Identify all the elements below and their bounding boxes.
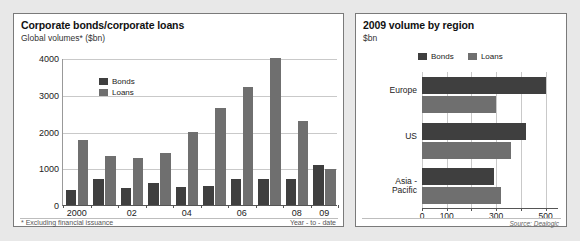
x-axis-tickmark bbox=[146, 205, 147, 208]
x-axis-tickmark bbox=[118, 205, 119, 208]
x-axis-tick-label: 0 bbox=[420, 211, 425, 221]
x-axis-tickmark bbox=[256, 205, 257, 208]
category-label-europe: Europe bbox=[390, 86, 417, 95]
bar-loans-06 bbox=[243, 87, 254, 205]
right-chart-panel: 2009 volume by region $bn Bonds Loans Eu… bbox=[355, 13, 567, 227]
x-axis-tick-label: 2000 bbox=[67, 208, 87, 218]
bar-loans-02 bbox=[133, 158, 144, 205]
left-chart-year-to-date-note: Year - to - date bbox=[290, 219, 336, 226]
right-chart-footer-rule bbox=[362, 218, 561, 219]
legend-swatch-loans bbox=[468, 53, 477, 60]
right-chart-title: 2009 volume by region bbox=[363, 19, 474, 31]
legend-label-loans: Loans bbox=[481, 52, 503, 61]
x-axis-tick-label: 300 bbox=[489, 211, 503, 221]
bar-bonds-asia-pacific bbox=[422, 168, 494, 185]
left-chart-footnote: * Excluding financial issuance bbox=[21, 219, 113, 226]
legend-item-bonds: Bonds bbox=[418, 52, 454, 61]
bar-bonds-09 bbox=[313, 165, 324, 205]
bar-loans-08 bbox=[298, 121, 309, 205]
x-axis-tickmark bbox=[91, 205, 92, 208]
x-axis-tickmark bbox=[521, 208, 522, 211]
bar-bonds-europe bbox=[422, 77, 546, 94]
x-axis-tick-label: 08 bbox=[292, 208, 302, 218]
bar-bonds-07 bbox=[258, 179, 269, 205]
x-axis-tick-label: 09 bbox=[319, 208, 329, 218]
gridline bbox=[63, 59, 337, 60]
gridline bbox=[63, 133, 337, 134]
x-axis-tickmark bbox=[201, 205, 202, 208]
x-axis-tick-label: 100 bbox=[440, 211, 454, 221]
legend-item-loans: Loans bbox=[468, 52, 503, 61]
left-chart-legend: Bonds Loans bbox=[99, 77, 135, 99]
left-chart-panel: Corporate bonds/corporate loans Global v… bbox=[13, 13, 344, 227]
figure-canvas: Corporate bonds/corporate loans Global v… bbox=[0, 0, 580, 241]
legend-swatch-loans bbox=[99, 89, 108, 96]
category-label-us: US bbox=[405, 132, 417, 141]
bar-loans-07 bbox=[270, 58, 281, 205]
bar-bonds-03 bbox=[148, 183, 159, 205]
legend-label-bonds: Bonds bbox=[431, 52, 454, 61]
bar-bonds-04 bbox=[176, 187, 187, 205]
left-chart-subtitle: Global volumes* ($bn) bbox=[21, 33, 105, 43]
bar-bonds-05 bbox=[203, 186, 214, 205]
bar-loans-09 bbox=[325, 169, 336, 205]
legend-label-loans: Loans bbox=[112, 88, 134, 97]
legend-swatch-bonds bbox=[99, 78, 108, 85]
legend-item-bonds: Bonds bbox=[99, 77, 135, 86]
gridline bbox=[546, 72, 547, 208]
bar-loans-us bbox=[422, 142, 511, 159]
category-label-asia-pacific: Asia -Pacific bbox=[392, 177, 417, 195]
y-axis-tick-label: 2000 bbox=[39, 128, 59, 138]
right-chart-plot-area: EuropeUSAsia -Pacific 0100300500 bbox=[422, 72, 558, 209]
x-axis-tick-label: 06 bbox=[237, 208, 247, 218]
bar-loans-01 bbox=[105, 156, 116, 205]
bar-loans-asia-pacific bbox=[422, 187, 501, 204]
legend-swatch-bonds bbox=[418, 53, 427, 60]
bar-bonds-08 bbox=[286, 179, 297, 205]
x-axis-tickmark bbox=[338, 205, 339, 208]
y-axis-tick-label: 1000 bbox=[39, 164, 59, 174]
bar-bonds-us bbox=[422, 123, 526, 140]
x-axis-tickmark bbox=[63, 205, 64, 208]
y-axis-tick-label: 0 bbox=[54, 201, 59, 211]
bar-loans-2000 bbox=[78, 140, 89, 205]
x-axis-tickmark bbox=[228, 205, 229, 208]
x-axis-tick-label: 04 bbox=[182, 208, 192, 218]
bar-bonds-06 bbox=[231, 179, 242, 205]
y-axis-tick-label: 4000 bbox=[39, 54, 59, 64]
right-chart-source: Source: Dealogic bbox=[510, 220, 560, 227]
right-chart-legend: Bonds Loans bbox=[418, 52, 515, 63]
legend-item-loans: Loans bbox=[99, 88, 135, 97]
right-chart-subtitle: $bn bbox=[363, 33, 377, 43]
bar-loans-04 bbox=[188, 132, 199, 205]
x-axis-tickmark bbox=[173, 205, 174, 208]
x-axis-tickmark bbox=[311, 205, 312, 208]
bar-loans-05 bbox=[215, 108, 226, 205]
bar-bonds-02 bbox=[121, 188, 132, 205]
left-chart-title: Corporate bonds/corporate loans bbox=[21, 19, 184, 31]
y-axis-tick-label: 3000 bbox=[39, 91, 59, 101]
bar-bonds-01 bbox=[93, 179, 104, 205]
left-chart-plot-area: 01000200030004000 20000204060809 Bonds L… bbox=[62, 59, 337, 206]
bar-loans-europe bbox=[422, 96, 496, 113]
x-axis-tickmark bbox=[471, 208, 472, 211]
legend-label-bonds: Bonds bbox=[112, 77, 135, 86]
bar-bonds-2000 bbox=[66, 190, 77, 205]
x-axis-tick-label: 02 bbox=[127, 208, 137, 218]
x-axis-tickmark bbox=[283, 205, 284, 208]
bar-loans-03 bbox=[160, 153, 171, 205]
